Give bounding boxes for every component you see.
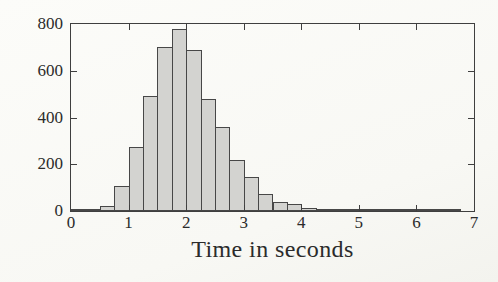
plot-area <box>70 23 475 212</box>
x-axis-tick <box>186 24 187 30</box>
y-tick-label: 200 <box>0 155 63 173</box>
histogram-bar <box>114 186 129 211</box>
histogram-bar <box>301 208 316 211</box>
histogram-bar <box>201 99 216 211</box>
x-tick-label: 1 <box>109 214 149 232</box>
y-axis-tick <box>71 118 77 119</box>
histogram-bar <box>100 206 115 211</box>
y-axis-tick <box>71 164 77 165</box>
x-axis-tick <box>129 24 130 30</box>
histogram-bar <box>258 194 273 211</box>
x-tick-label: 4 <box>281 214 321 232</box>
histogram-bar <box>172 29 187 211</box>
x-axis-tick <box>416 24 417 30</box>
x-tick-label: 3 <box>224 214 264 232</box>
histogram-bar <box>373 209 388 211</box>
y-tick-label: 400 <box>0 109 63 127</box>
x-tick-label: 5 <box>339 214 379 232</box>
x-axis-tick <box>301 24 302 30</box>
y-tick-label: 800 <box>0 15 63 33</box>
x-axis-tick <box>129 205 130 211</box>
histogram-bar <box>71 209 86 211</box>
y-axis-tick <box>468 71 474 72</box>
histogram-bar <box>287 204 302 211</box>
x-tick-label: 2 <box>166 214 206 232</box>
histogram-bar <box>359 209 374 211</box>
histogram-bar <box>445 209 460 211</box>
histogram-bar <box>416 209 431 211</box>
histogram-bars <box>71 24 474 211</box>
histogram-bar <box>330 209 345 211</box>
histogram-bar <box>388 209 403 211</box>
x-axis-title: Time in seconds <box>70 236 475 263</box>
x-axis-tick <box>301 205 302 211</box>
histogram-bar <box>143 96 158 211</box>
x-tick-label: 6 <box>396 214 436 232</box>
histogram-bar <box>186 50 201 211</box>
histogram-bar <box>244 177 259 211</box>
x-axis-tick <box>359 24 360 30</box>
histogram-bar <box>215 127 230 211</box>
y-tick-label: 0 <box>0 202 63 220</box>
histogram-bar <box>316 209 331 211</box>
x-axis-tick <box>359 205 360 211</box>
x-tick-label: 7 <box>454 214 494 232</box>
histogram-bar <box>402 209 417 211</box>
x-axis-tick <box>244 205 245 211</box>
y-axis-tick <box>71 71 77 72</box>
histogram-bar <box>157 47 172 211</box>
y-axis-tick <box>468 164 474 165</box>
x-axis-tick <box>244 24 245 30</box>
histogram-bar <box>431 209 446 211</box>
histogram-bar <box>129 147 144 211</box>
histogram-figure: 012345670200400600800 Time in seconds <box>0 0 498 282</box>
x-axis-tick <box>416 205 417 211</box>
histogram-bar <box>229 160 244 211</box>
y-tick-label: 600 <box>0 62 63 80</box>
histogram-bar <box>85 209 100 211</box>
y-axis-tick <box>468 118 474 119</box>
histogram-bar <box>344 209 359 211</box>
x-axis-tick <box>186 205 187 211</box>
histogram-bar <box>273 202 288 211</box>
